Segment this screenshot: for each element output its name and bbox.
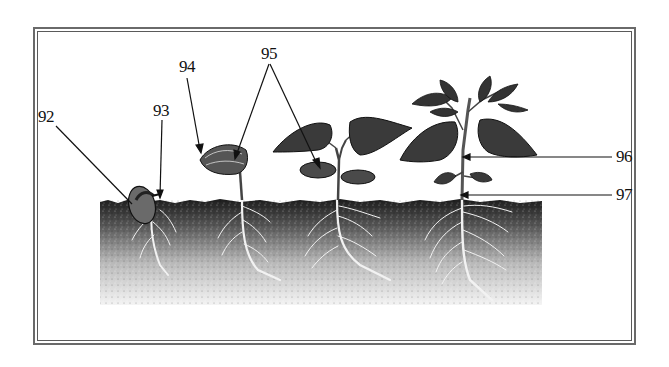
label-93: 93: [153, 102, 169, 119]
label-96: 96: [616, 148, 632, 165]
label-94: 94: [179, 58, 195, 75]
germination-diagram: 92 93 94 95 96 97: [0, 0, 669, 367]
stage-3-seedling: [273, 117, 412, 200]
label-95: 95: [261, 45, 277, 62]
leader-93: [160, 120, 162, 196]
arrowhead-93: [157, 190, 163, 198]
leader-lines: [56, 64, 612, 204]
label-97: 97: [616, 186, 632, 203]
leader-94: [187, 78, 200, 150]
label-92: 92: [38, 108, 54, 125]
illustration: [0, 0, 669, 367]
stage-2-hook: [200, 145, 248, 200]
leader-92: [56, 126, 132, 204]
arrowhead-94: [196, 144, 203, 153]
stage-4-mature: [400, 76, 537, 200]
leader-95a: [236, 64, 269, 156]
